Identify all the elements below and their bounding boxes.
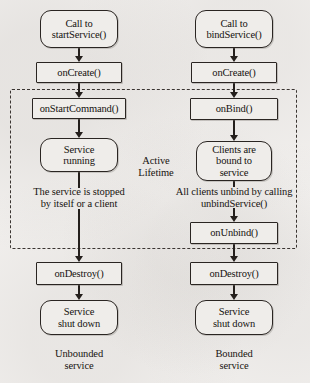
arrow-ondestroy-to-shutdown-right bbox=[228, 285, 240, 300]
node-on-destroy-left: onDestroy() bbox=[36, 262, 122, 285]
node-service-shut-down-right-line1: Service bbox=[219, 306, 249, 317]
label-service-stopped-line2: by itself or a client bbox=[10, 198, 148, 210]
node-on-destroy-right: onDestroy() bbox=[190, 262, 278, 285]
node-on-unbind-label: onUnbind() bbox=[210, 227, 258, 238]
node-service-shut-down-right: Service shut down bbox=[195, 300, 273, 335]
arrow-start-to-oncreate-left bbox=[73, 48, 85, 62]
node-on-create-right: onCreate() bbox=[191, 62, 277, 83]
node-on-bind: onBind() bbox=[190, 98, 278, 120]
node-service-shut-down-left-line1: Service bbox=[64, 306, 94, 317]
footer-unbounded-service-line2: service bbox=[29, 360, 129, 372]
arrow-stopped-to-ondestroy-left bbox=[73, 209, 85, 262]
node-call-to-start-service-line2: startService() bbox=[52, 29, 106, 40]
node-call-to-start-service: Call to startService() bbox=[40, 10, 118, 48]
arrow-ondestroy-to-shutdown-left bbox=[73, 285, 85, 300]
label-active-lifetime-line1: Active bbox=[125, 155, 187, 167]
node-call-to-bind-service-line1: Call to bbox=[220, 18, 247, 29]
node-on-start-command: onStartCommand() bbox=[32, 98, 126, 119]
node-service-shut-down-left: Service shut down bbox=[40, 300, 118, 335]
arrow-unbind-to-onunbind bbox=[228, 208, 240, 222]
node-clients-bound-to-service: Clients are bound to service bbox=[196, 141, 272, 181]
label-active-lifetime: Active Lifetime bbox=[125, 155, 187, 178]
node-service-running: Service running bbox=[40, 138, 118, 172]
label-all-clients-unbind-line2: unbindService() bbox=[160, 198, 308, 210]
arrow-start-to-oncreate-right bbox=[228, 48, 240, 62]
label-service-stopped: The service is stopped by itself or a cl… bbox=[10, 186, 148, 209]
node-service-running-line1: Service bbox=[64, 144, 94, 155]
node-service-running-line2: running bbox=[63, 155, 95, 166]
node-on-start-command-label: onStartCommand() bbox=[40, 103, 119, 114]
label-all-clients-unbind-line1: All clients unbind by calling bbox=[160, 186, 308, 198]
arrow-onbind-to-clients-bound bbox=[228, 120, 240, 141]
node-service-shut-down-left-line2: shut down bbox=[58, 318, 100, 329]
label-active-lifetime-line2: Lifetime bbox=[125, 167, 187, 179]
arrow-oncreate-to-onbind bbox=[228, 83, 240, 98]
node-on-create-left: onCreate() bbox=[36, 62, 122, 83]
footer-bounded-service: Bounded service bbox=[184, 348, 284, 371]
node-on-bind-label: onBind() bbox=[216, 103, 253, 114]
node-clients-bound-line1: Clients are bbox=[212, 144, 256, 155]
footer-bounded-service-line1: Bounded bbox=[184, 348, 284, 360]
node-on-create-right-label: onCreate() bbox=[212, 67, 255, 78]
service-lifecycle-diagram: Call to startService() onCreate() onStar… bbox=[0, 0, 310, 383]
node-on-destroy-right-label: onDestroy() bbox=[209, 268, 258, 279]
node-call-to-bind-service-line2: bindService() bbox=[206, 29, 261, 40]
label-all-clients-unbind: All clients unbind by calling unbindServ… bbox=[160, 186, 308, 209]
node-service-shut-down-right-line2: shut down bbox=[213, 318, 255, 329]
label-service-stopped-line1: The service is stopped bbox=[10, 186, 148, 198]
arrow-onstartcommand-to-service-running bbox=[73, 119, 85, 138]
arrow-onunbind-to-ondestroy-right bbox=[228, 244, 240, 262]
node-call-to-start-service-line1: Call to bbox=[65, 18, 92, 29]
node-on-create-left-label: onCreate() bbox=[57, 67, 100, 78]
footer-bounded-service-line2: service bbox=[184, 360, 284, 372]
node-clients-bound-line2: bound to bbox=[216, 155, 252, 166]
node-on-unbind: onUnbind() bbox=[190, 222, 278, 244]
node-clients-bound-line3: service bbox=[220, 167, 249, 178]
footer-unbounded-service-line1: Unbounded bbox=[29, 348, 129, 360]
footer-unbounded-service: Unbounded service bbox=[29, 348, 129, 371]
node-on-destroy-left-label: onDestroy() bbox=[54, 268, 103, 279]
arrow-oncreate-to-onstartcommand bbox=[73, 83, 85, 98]
node-call-to-bind-service: Call to bindService() bbox=[195, 10, 273, 48]
